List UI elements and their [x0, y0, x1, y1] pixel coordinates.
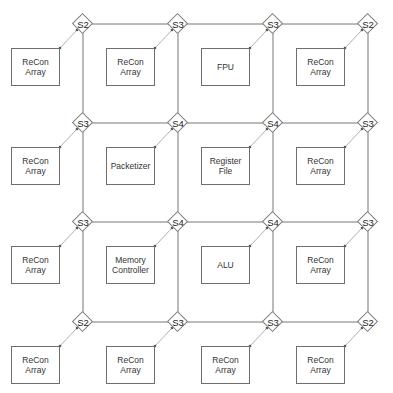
switch-label: S3	[357, 112, 379, 134]
switch-router: S3	[262, 13, 284, 35]
switch-label: S2	[72, 13, 94, 35]
processing-node: ReCon Array	[106, 346, 155, 384]
switch-router: S4	[167, 112, 189, 134]
switch-label: S2	[72, 311, 94, 333]
processing-node: Memory Controller	[106, 246, 155, 284]
processing-node: FPU	[201, 48, 250, 86]
switch-router: S3	[72, 211, 94, 233]
switch-router: S2	[357, 311, 379, 333]
switch-label: S4	[167, 112, 189, 134]
switch-label: S3	[357, 211, 379, 233]
switch-router: S2	[72, 311, 94, 333]
switch-label: S3	[72, 211, 94, 233]
switch-label: S2	[357, 13, 379, 35]
processing-node: ReCon Array	[296, 48, 345, 86]
switch-router: S3	[357, 211, 379, 233]
switch-router: S2	[72, 13, 94, 35]
processing-node: ReCon Array	[106, 48, 155, 86]
switch-label: S4	[167, 211, 189, 233]
switch-label: S3	[167, 13, 189, 35]
processing-node: ReCon Array	[11, 346, 60, 384]
switch-router: S4	[262, 211, 284, 233]
processing-node: ReCon Array	[11, 147, 60, 185]
switch-router: S3	[72, 112, 94, 134]
processing-node: ReCon Array	[296, 346, 345, 384]
switch-label: S4	[262, 211, 284, 233]
switch-router: S2	[357, 13, 379, 35]
switch-router: S3	[167, 311, 189, 333]
processing-node: ReCon Array	[201, 346, 250, 384]
processing-node: Register File	[201, 147, 250, 185]
processing-node: Packetizer	[106, 147, 155, 185]
switch-router: S4	[167, 211, 189, 233]
switch-router: S3	[357, 112, 379, 134]
switch-router: S3	[262, 311, 284, 333]
noc-mesh-diagram: ReCon ArrayS2ReCon ArrayS3FPUS3ReCon Arr…	[0, 0, 393, 393]
switch-label: S3	[72, 112, 94, 134]
processing-node: ReCon Array	[11, 246, 60, 284]
switch-router: S3	[167, 13, 189, 35]
switch-router: S4	[262, 112, 284, 134]
processing-node: ALU	[201, 246, 250, 284]
switch-label: S2	[357, 311, 379, 333]
processing-node: ReCon Array	[296, 246, 345, 284]
processing-node: ReCon Array	[296, 147, 345, 185]
switch-label: S3	[262, 311, 284, 333]
switch-label: S3	[167, 311, 189, 333]
processing-node: ReCon Array	[11, 48, 60, 86]
switch-label: S3	[262, 13, 284, 35]
switch-label: S4	[262, 112, 284, 134]
